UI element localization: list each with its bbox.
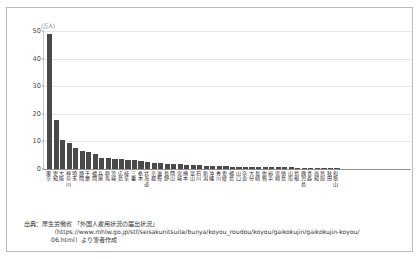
x-axis-label: 埼玉 — [72, 171, 77, 182]
bar — [263, 167, 268, 169]
source-line-1: 出典：厚生労働省 「外国人雇用状況の届出状況」 — [24, 220, 409, 228]
x-axis-label: 沖縄 — [209, 171, 214, 182]
x-axis-label: 奈良 — [242, 171, 247, 182]
bar — [152, 163, 157, 169]
bar — [54, 120, 59, 169]
bar — [73, 148, 78, 169]
bar-chart: (万人) 01020304050 — [21, 22, 413, 182]
source-line-2-url: （https://www.mhlw.go.jp/stf/seisakunitsu… — [24, 228, 409, 236]
x-axis-label: 鹿児島 — [301, 171, 306, 187]
source-note: 出典：厚生労働省 「外国人雇用状況の届出状況」 （https://www.mhl… — [24, 220, 409, 245]
bar — [60, 140, 65, 169]
x-axis-label: 青森 — [307, 171, 312, 182]
x-axis-label: 神奈川 — [66, 171, 71, 187]
bar — [106, 158, 111, 169]
bar — [67, 143, 72, 169]
bar — [223, 166, 228, 169]
x-axis-label: 群馬 — [105, 171, 110, 182]
y-axis-tick-label: 50 — [33, 27, 41, 35]
bar — [236, 167, 241, 169]
bar — [230, 167, 235, 170]
x-axis-label: 佐賀 — [262, 171, 267, 182]
x-axis-label: 富山 — [190, 171, 195, 182]
x-axis-label: 愛媛 — [222, 171, 227, 182]
bar — [112, 159, 117, 169]
x-axis-label: 徳島 — [281, 171, 286, 182]
x-axis-label: 大分 — [248, 171, 253, 182]
bar — [145, 162, 150, 169]
bar — [138, 161, 143, 169]
x-axis-label: 島根 — [294, 171, 299, 182]
bar — [334, 168, 339, 169]
x-axis-label: 京都 — [151, 171, 156, 182]
bar — [289, 167, 294, 169]
bar — [315, 168, 320, 169]
y-axis-tick-label: 10 — [33, 137, 41, 145]
bar — [158, 163, 163, 169]
y-axis-tick-mark — [42, 141, 45, 142]
bar — [99, 158, 104, 169]
x-axis-label: 宮城 — [177, 171, 182, 182]
bar — [86, 152, 91, 169]
bar — [125, 160, 130, 169]
x-axis-label: 岐阜 — [124, 171, 129, 182]
x-axis-label: 静岡 — [79, 171, 84, 182]
x-axis-label: 秋田 — [327, 171, 332, 182]
bar — [295, 168, 300, 169]
plot-area: 01020304050 — [43, 31, 411, 170]
x-axis-label: 高知 — [314, 171, 319, 182]
x-axis-label: 熊本 — [183, 171, 188, 182]
bar — [243, 167, 248, 169]
y-axis-tick-label: 40 — [33, 55, 41, 63]
bar — [269, 167, 274, 169]
x-axis-label: 長崎 — [255, 171, 260, 182]
bar — [191, 165, 196, 169]
x-axis-label: 岩手 — [268, 171, 273, 182]
bar — [308, 168, 313, 169]
x-axis-labels: 東京愛知大阪神奈川埼玉静岡千葉福岡兵庫群馬茨城広島岐阜三重栃木北海道京都滋賀長野… — [44, 171, 412, 197]
x-axis-label: 東京 — [46, 171, 51, 182]
bar — [93, 154, 98, 169]
bar — [80, 151, 85, 169]
y-axis-unit-label: (万人) — [41, 22, 55, 29]
x-axis-label: 長野 — [164, 171, 169, 182]
bar — [210, 166, 215, 169]
bar — [302, 168, 307, 169]
bar — [171, 164, 176, 169]
x-axis-label: 福島 — [229, 171, 234, 182]
bar — [217, 166, 222, 169]
x-axis-label: 愛知 — [53, 171, 58, 182]
x-axis-label: 山形 — [288, 171, 293, 182]
bar — [321, 168, 326, 169]
screenshot-root: (万人) 01020304050 東京愛知大阪神奈川埼玉静岡千葉福岡兵庫群馬茨城… — [0, 0, 420, 259]
x-axis-label: 山口 — [235, 171, 240, 182]
figure-frame: (万人) 01020304050 東京愛知大阪神奈川埼玉静岡千葉福岡兵庫群馬茨城… — [6, 7, 413, 252]
x-axis-label: 三重 — [131, 171, 136, 182]
source-line-3: 06.html）より筆者作成 — [24, 236, 409, 244]
x-axis-label: 大阪 — [59, 171, 64, 182]
bar — [249, 167, 254, 169]
x-axis-label: 宮崎 — [275, 171, 280, 182]
bar — [178, 164, 183, 169]
y-axis-tick-label: 30 — [33, 82, 41, 90]
y-axis-tick-mark — [42, 169, 45, 170]
bar — [47, 34, 52, 169]
bar — [276, 167, 281, 169]
x-axis-label: 香川 — [216, 171, 221, 182]
x-axis-label: 栃木 — [137, 171, 142, 182]
bar — [132, 160, 137, 169]
x-axis-label: 和歌山 — [333, 171, 338, 187]
x-axis-label: 茨城 — [111, 171, 116, 182]
bar — [119, 159, 124, 169]
bar-series — [45, 31, 411, 169]
x-axis-label: 広島 — [118, 171, 123, 182]
x-axis-label: 兵庫 — [98, 171, 103, 182]
x-axis-label: 福岡 — [92, 171, 97, 182]
bar — [204, 166, 209, 169]
y-axis-tick-label: 0 — [37, 165, 41, 173]
bar — [282, 167, 287, 169]
y-axis-tick-label: 20 — [33, 110, 41, 118]
x-axis-label: 滋賀 — [157, 171, 162, 182]
bar — [197, 165, 202, 169]
bar — [328, 168, 333, 169]
